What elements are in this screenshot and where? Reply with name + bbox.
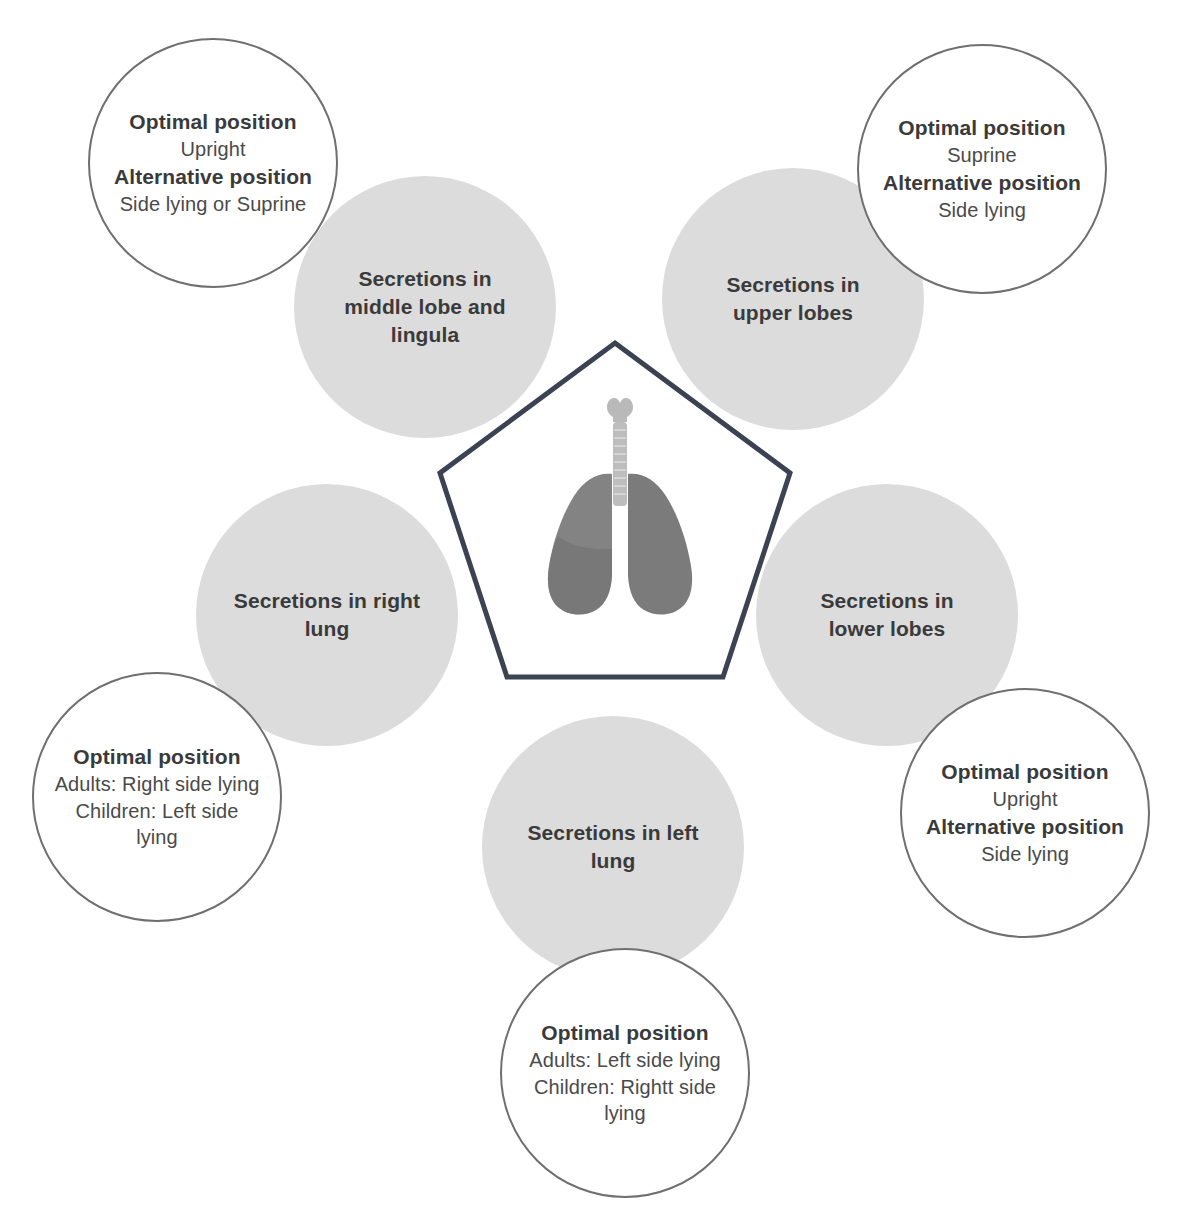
alternative-position-value: Side lying or Suprine [114, 191, 312, 218]
lungs-icon [536, 396, 704, 626]
optimal-position-heading: Optimal position [529, 1019, 720, 1047]
position-bubble-upper-lobes[interactable]: Optimal position Suprine Alternative pos… [857, 44, 1107, 294]
alternative-position-value: Side lying [926, 841, 1124, 868]
condition-label-left-lung: Secretions in left lung [482, 819, 744, 874]
condition-bubble-left-lung[interactable]: Secretions in left lung [482, 716, 744, 978]
center-stage [418, 328, 818, 708]
optimal-position-heading: Optimal position [883, 114, 1081, 142]
optimal-position-value: Suprine [883, 142, 1081, 169]
adults-position-value: Adults: Left side lying [529, 1047, 720, 1074]
position-text-lower-lobes: Optimal position Upright Alternative pos… [914, 758, 1136, 867]
alternative-position-heading: Alternative position [114, 163, 312, 191]
optimal-position-heading: Optimal position [55, 743, 260, 771]
position-bubble-left-lung[interactable]: Optimal position Adults: Left side lying… [500, 948, 750, 1198]
alternative-position-value: Side lying [883, 197, 1081, 224]
children-position-value-line2: lying [55, 824, 260, 851]
children-position-value-line1: Children: Rightt side [529, 1074, 720, 1101]
optimal-position-heading: Optimal position [926, 758, 1124, 786]
condition-label-upper-lobes: Secretions in upper lobes [662, 271, 924, 326]
adults-position-value: Adults: Right side lying [55, 771, 260, 798]
larynx-shape [607, 398, 633, 422]
position-bubble-middle-lobe-lingula[interactable]: Optimal position Upright Alternative pos… [88, 38, 338, 288]
position-text-right-lung: Optimal position Adults: Right side lyin… [43, 743, 272, 851]
position-bubble-lower-lobes[interactable]: Optimal position Upright Alternative pos… [900, 688, 1150, 938]
position-text-left-lung: Optimal position Adults: Left side lying… [517, 1019, 732, 1127]
alternative-position-heading: Alternative position [883, 169, 1081, 197]
left-lung-shape [628, 474, 692, 615]
children-position-value-line1: Children: Left side [55, 798, 260, 825]
optimal-position-heading: Optimal position [114, 108, 312, 136]
position-text-upper-lobes: Optimal position Suprine Alternative pos… [871, 114, 1093, 223]
children-position-value-line2: lying [529, 1100, 720, 1127]
position-text-middle-lobe-lingula: Optimal position Upright Alternative pos… [102, 108, 324, 217]
optimal-position-value: Upright [926, 786, 1124, 813]
optimal-position-value: Upright [114, 136, 312, 163]
positioning-diagram: Secretions in middle lobe and lingula Se… [0, 0, 1182, 1227]
position-bubble-right-lung[interactable]: Optimal position Adults: Right side lyin… [32, 672, 282, 922]
alternative-position-heading: Alternative position [926, 813, 1124, 841]
